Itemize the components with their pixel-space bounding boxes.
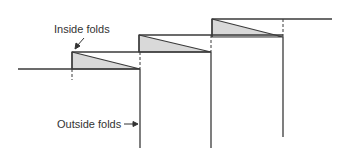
inside-folds-label: Inside folds <box>54 23 110 35</box>
outside-arrow-head <box>133 122 138 127</box>
fold-triangle-2 <box>139 35 211 52</box>
fold-triangle-3 <box>212 19 283 37</box>
outside-folds-label: Outside folds <box>57 118 122 130</box>
fold-triangle-1 <box>72 52 140 69</box>
stair-fold-diagram: Inside folds Outside folds <box>0 0 346 162</box>
